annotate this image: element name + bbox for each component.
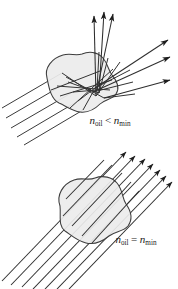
figure-canvas: noil<nmin: [0, 0, 178, 289]
matched-index-panel: noil=nmin: [2, 152, 172, 289]
mismatched-index-panel: noil<nmin: [2, 12, 170, 145]
optics-figure: noil<nmin: [0, 0, 178, 289]
label-mismatched-index: noil<nmin: [90, 114, 131, 128]
label-matched-index: noil=nmin: [116, 233, 157, 247]
